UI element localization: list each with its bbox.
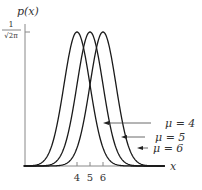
annotation-mu-6: μ = 6	[137, 142, 183, 155]
x-tick-label-4: 4	[74, 172, 80, 183]
arrowhead-icon	[103, 121, 109, 125]
y-tick-label-denominator: √2π	[4, 32, 18, 40]
annotation-label-mu-6: μ = 6	[153, 142, 183, 155]
x-tick-label-6: 6	[100, 172, 106, 183]
curve-mu-4	[24, 32, 165, 166]
curve-mu-5	[24, 32, 165, 166]
x-tick-label-5: 5	[87, 172, 93, 183]
annotation-label-mu-4: μ = 4	[165, 117, 195, 130]
arrowhead-icon	[121, 135, 127, 139]
annotation-mu-4: μ = 4	[103, 117, 195, 130]
gaussian-chart: μ = 4 μ = 5 μ = 6 p(x) x 1 √2π 4 5 6	[0, 0, 202, 190]
arrowhead-icon	[137, 146, 143, 150]
x-axis-label: x	[170, 160, 177, 173]
y-axis-label: p(x)	[17, 5, 39, 18]
curve-mu-6	[24, 32, 165, 166]
y-tick-label-numerator: 1	[8, 20, 13, 29]
